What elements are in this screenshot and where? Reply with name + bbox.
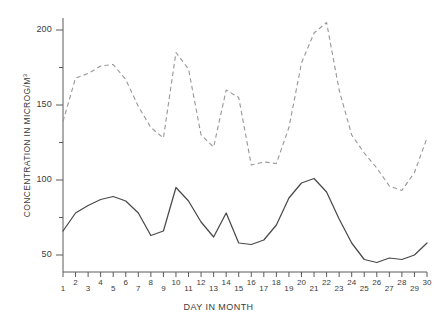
y-axis-tick-label: 200 [24,24,52,34]
y-axis-tick-label: 50 [24,249,52,259]
y-axis-title-superscript: 3 [22,74,28,78]
chart-background [0,0,437,324]
x-axis-title: DAY IN MONTH [0,302,437,312]
y-axis-tick-label: 150 [24,99,52,109]
chart-canvas [0,0,437,324]
air-quality-line-chart: CONCENTRATION IN MICROG/M3 DAY IN MONTH … [0,0,437,324]
y-axis-title: CONCENTRATION IN MICROG/M3 [22,30,33,260]
x-axis-tick-label: 30 [420,278,434,287]
y-axis-tick-label: 100 [24,174,52,184]
